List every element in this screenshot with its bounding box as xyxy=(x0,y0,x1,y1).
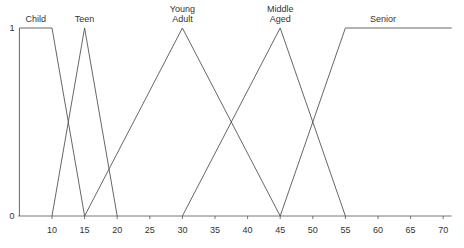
axes: 1015202530354045505560657001 xyxy=(9,23,451,235)
y-tick-label: 0 xyxy=(9,211,14,221)
x-tick-label: 70 xyxy=(438,225,448,235)
teen-label: Teen xyxy=(75,14,95,24)
x-tick-label: 30 xyxy=(177,225,187,235)
x-tick-label: 60 xyxy=(373,225,383,235)
child-label: Child xyxy=(25,14,46,24)
x-tick-label: 65 xyxy=(406,225,416,235)
child-membership-line xyxy=(19,28,84,216)
young-adult-label: Young xyxy=(170,4,195,14)
x-tick-label: 40 xyxy=(243,225,253,235)
x-tick-label: 35 xyxy=(210,225,220,235)
x-tick-label: 15 xyxy=(80,225,90,235)
membership-functions xyxy=(19,28,451,216)
x-tick-label: 45 xyxy=(275,225,285,235)
senior-label: Senior xyxy=(370,14,396,24)
x-tick-label: 25 xyxy=(145,225,155,235)
middle-aged-label: Middle xyxy=(267,4,294,14)
teen-membership-line xyxy=(52,28,117,216)
x-tick-label: 10 xyxy=(47,225,57,235)
x-tick-label: 55 xyxy=(340,225,350,235)
series-labels: ChildTeenYoungAdultMiddleAgedSenior xyxy=(25,4,396,24)
fuzzy-membership-chart: 1015202530354045505560657001 ChildTeenYo… xyxy=(0,0,464,248)
y-tick-label: 1 xyxy=(9,23,14,33)
young-adult-label: Adult xyxy=(172,14,193,24)
x-tick-label: 20 xyxy=(112,225,122,235)
middle-aged-membership-line xyxy=(182,28,345,216)
young-adult-membership-line xyxy=(85,28,281,216)
x-tick-label: 50 xyxy=(308,225,318,235)
middle-aged-label: Aged xyxy=(270,14,291,24)
senior-membership-line xyxy=(280,28,452,216)
